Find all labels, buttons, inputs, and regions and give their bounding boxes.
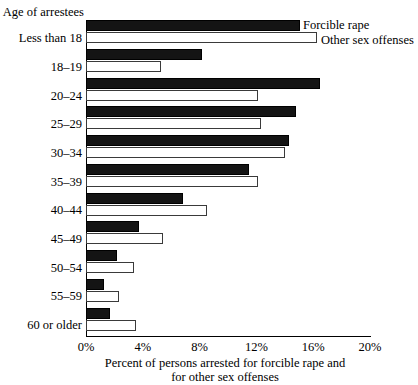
bar-group: [86, 193, 370, 222]
x-tick-label-3: 12%: [236, 340, 276, 354]
bar-forcible-rape: [86, 279, 104, 290]
bar-forcible-rape: [86, 78, 320, 89]
bar-other-sex-offenses: [86, 262, 134, 273]
category-label-10: 60 or older: [0, 319, 82, 332]
bar-forcible-rape: [86, 49, 202, 60]
bar-group: [86, 49, 370, 78]
x-tick-label-0: 0%: [66, 340, 106, 354]
plot-area: [86, 20, 370, 336]
category-label-6: 40–44: [0, 204, 82, 217]
legend-item-forcible-rape: Forcible rape: [303, 18, 369, 33]
x-axis-title-line-1: Percent of persons arrested for forcible…: [105, 356, 346, 370]
legend-label-other-sex-offenses: Other sex offenses: [321, 33, 414, 47]
x-axis-title-line-2: for other sex offenses: [60, 370, 390, 384]
bar-group: [86, 135, 370, 164]
bar-other-sex-offenses: [86, 90, 258, 101]
bar-group: [86, 250, 370, 279]
bar-other-sex-offenses: [86, 147, 285, 158]
category-label-7: 45–49: [0, 233, 82, 246]
x-tick-label-5: 20%: [350, 340, 390, 354]
bar-other-sex-offenses: [86, 32, 317, 43]
bar-group: [86, 308, 370, 337]
bar-other-sex-offenses: [86, 118, 261, 129]
x-tick-label-2: 8%: [180, 340, 220, 354]
bar-other-sex-offenses: [86, 233, 163, 244]
legend-item-other-sex-offenses: Other sex offenses: [321, 33, 414, 48]
bar-chart: Age of arrestees Less than 18 18–19 20–2…: [0, 0, 418, 385]
bar-other-sex-offenses: [86, 61, 161, 72]
bar-forcible-rape: [86, 135, 289, 146]
bar-group: [86, 279, 370, 308]
category-label-1: 18–19: [0, 61, 82, 74]
category-label-4: 30–34: [0, 147, 82, 160]
y-axis-title: Age of arrestees: [0, 5, 84, 19]
category-label-5: 35–39: [0, 176, 82, 189]
bar-forcible-rape: [86, 250, 117, 261]
bar-forcible-rape: [86, 221, 139, 232]
bar-group: [86, 164, 370, 193]
bar-other-sex-offenses: [86, 205, 207, 216]
bar-forcible-rape: [86, 20, 300, 31]
bar-forcible-rape: [86, 193, 183, 204]
category-label-2: 20–24: [0, 90, 82, 103]
category-label-0: Less than 18: [0, 32, 82, 45]
bar-group: [86, 106, 370, 135]
bar-other-sex-offenses: [86, 291, 119, 302]
category-label-9: 55–59: [0, 290, 82, 303]
bar-group: [86, 78, 370, 107]
bar-other-sex-offenses: [86, 320, 136, 331]
bar-forcible-rape: [86, 164, 249, 175]
x-tick-label-1: 4%: [123, 340, 163, 354]
x-tick-label-4: 16%: [293, 340, 333, 354]
bar-other-sex-offenses: [86, 176, 258, 187]
bar-forcible-rape: [86, 308, 110, 319]
category-label-8: 50–54: [0, 262, 82, 275]
legend-label-forcible-rape: Forcible rape: [303, 18, 369, 32]
bar-group: [86, 221, 370, 250]
category-label-3: 25–29: [0, 118, 82, 131]
x-axis-title: Percent of persons arrested for forcible…: [60, 356, 390, 384]
bar-forcible-rape: [86, 106, 296, 117]
